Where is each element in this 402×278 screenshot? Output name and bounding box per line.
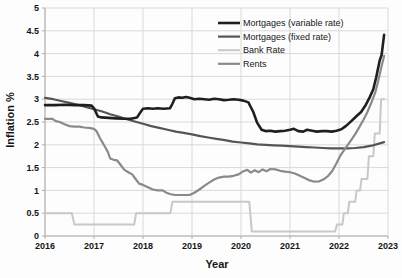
y-tick-label: 4.5 [26,26,39,36]
x-tick-label: 2017 [84,241,104,251]
inflation-line-chart: 00.511.522.533.544.552016201720182019202… [0,0,402,278]
y-tick-label: 3.5 [26,72,39,82]
x-tick-label: 2023 [378,241,398,251]
series-line-mortgages-fixed-rate [45,98,384,149]
x-tick-label: 2020 [231,241,251,251]
chart-canvas: 00.511.522.533.544.552016201720182019202… [0,0,402,278]
y-tick-label: 4 [34,49,39,59]
y-tick-label: 5 [34,3,39,13]
x-tick-label: 2018 [133,241,153,251]
x-tick-label: 2019 [182,241,202,251]
legend-label: Bank Rate [243,45,285,55]
x-tick-label: 2016 [35,241,55,251]
y-axis-title: Inflation % [4,92,16,148]
y-tick-label: 1 [34,186,39,196]
y-tick-label: 0 [34,231,39,241]
y-tick-label: 0.5 [26,208,39,218]
y-tick-label: 1.5 [26,163,39,173]
legend-label: Mortgages (variable rate) [243,18,344,28]
y-tick-label: 2 [34,140,39,150]
x-tick-label: 2022 [329,241,349,251]
x-tick-label: 2021 [280,241,300,251]
legend-label: Rents [243,59,267,69]
series-line-bank-rate [45,99,384,231]
legend-label: Mortgages (fixed rate) [243,32,331,42]
y-tick-label: 3 [34,94,39,104]
y-tick-label: 2.5 [26,117,39,127]
x-axis-title: Year [205,258,228,270]
series-line-mortgages-variable-rate [45,35,384,132]
